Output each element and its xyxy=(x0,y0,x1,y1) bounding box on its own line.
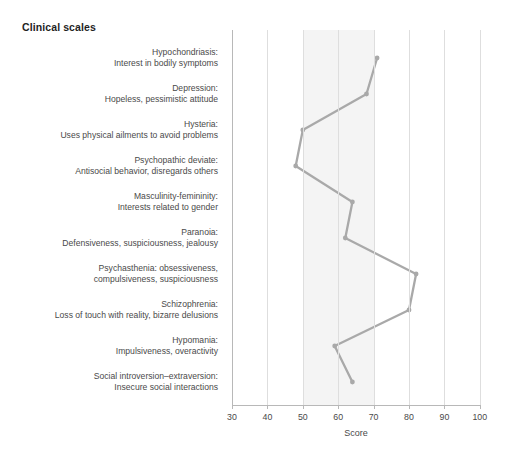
data-point-1 xyxy=(364,92,369,97)
gridline-60 xyxy=(338,30,339,405)
category-label-line2: Antisocial behavior, disregards others xyxy=(0,166,218,177)
gridline-50 xyxy=(303,30,304,405)
category-label-line1: Hypomania: xyxy=(0,335,218,346)
category-label-0: Hypochondriasis:Interest in bodily sympt… xyxy=(0,47,218,70)
score-line-series xyxy=(232,30,480,405)
category-label-line1: Schizophrenia: xyxy=(0,299,218,310)
category-label-line2: Interest in bodily symptoms xyxy=(0,58,218,69)
category-label-line1: Paranoia: xyxy=(0,227,218,238)
gridline-90 xyxy=(444,30,445,405)
category-label-5: Paranoia:Defensiveness, suspiciousness, … xyxy=(0,227,218,250)
category-label-8: Hypomania:Impulsiveness, overactivity xyxy=(0,335,218,358)
category-label-line1: Psychasthenia: obsessiveness, xyxy=(0,263,218,274)
category-label-line2: Hopeless, pessimistic attitude xyxy=(0,94,218,105)
data-point-0 xyxy=(375,56,380,61)
category-label-9: Social introversion–extraversion:Insecur… xyxy=(0,371,218,394)
x-tick-label-50: 50 xyxy=(298,412,308,422)
data-point-9 xyxy=(350,380,355,385)
x-tick-label-70: 70 xyxy=(369,412,379,422)
x-tick-30 xyxy=(232,405,233,409)
x-tick-60 xyxy=(338,405,339,409)
category-label-6: Psychasthenia: obsessiveness,compulsiven… xyxy=(0,263,218,286)
data-point-4 xyxy=(350,200,355,205)
plot-area: 30405060708090100Score xyxy=(232,30,480,405)
category-label-line1: Depression: xyxy=(0,83,218,94)
data-point-3 xyxy=(293,164,298,169)
category-label-7: Schizophrenia:Loss of touch with reality… xyxy=(0,299,218,322)
x-tick-label-60: 60 xyxy=(333,412,343,422)
category-label-column: Hypochondriasis:Interest in bodily sympt… xyxy=(0,30,226,405)
x-tick-label-90: 90 xyxy=(439,412,449,422)
x-axis-title: Score xyxy=(344,428,368,438)
x-tick-50 xyxy=(303,405,304,409)
gridline-70 xyxy=(374,30,375,405)
x-tick-70 xyxy=(374,405,375,409)
x-tick-label-100: 100 xyxy=(472,412,487,422)
gridline-40 xyxy=(267,30,268,405)
category-label-line2: compulsiveness, suspiciousness xyxy=(0,274,218,285)
x-tick-label-30: 30 xyxy=(227,412,237,422)
chart-figure: Clinical scales Hypochondriasis:Interest… xyxy=(0,0,511,463)
category-label-line2: Impulsiveness, overactivity xyxy=(0,346,218,357)
gridline-80 xyxy=(409,30,410,405)
category-label-line1: Social introversion–extraversion: xyxy=(0,371,218,382)
category-label-line2: Uses physical ailments to avoid problems xyxy=(0,130,218,141)
category-label-line1: Hysteria: xyxy=(0,119,218,130)
category-label-line1: Masculinity-femininity: xyxy=(0,191,218,202)
category-label-1: Depression:Hopeless, pessimistic attitud… xyxy=(0,83,218,106)
category-label-line2: Loss of touch with reality, bizarre delu… xyxy=(0,310,218,321)
x-tick-label-40: 40 xyxy=(262,412,272,422)
category-label-2: Hysteria:Uses physical ailments to avoid… xyxy=(0,119,218,142)
category-label-line2: Defensiveness, suspiciousness, jealousy xyxy=(0,238,218,249)
category-label-line2: Insecure social interactions xyxy=(0,382,218,393)
category-label-line1: Hypochondriasis: xyxy=(0,47,218,58)
gridline-100 xyxy=(480,30,481,405)
x-tick-40 xyxy=(267,405,268,409)
category-label-3: Psychopathic deviate:Antisocial behavior… xyxy=(0,155,218,178)
data-point-8 xyxy=(332,344,337,349)
x-tick-90 xyxy=(444,405,445,409)
category-label-line1: Psychopathic deviate: xyxy=(0,155,218,166)
x-tick-100 xyxy=(480,405,481,409)
data-point-6 xyxy=(414,272,419,277)
category-label-4: Masculinity-femininity:Interests related… xyxy=(0,191,218,214)
data-point-5 xyxy=(343,236,348,241)
category-label-line2: Interests related to gender xyxy=(0,202,218,213)
x-tick-80 xyxy=(409,405,410,409)
x-tick-label-80: 80 xyxy=(404,412,414,422)
